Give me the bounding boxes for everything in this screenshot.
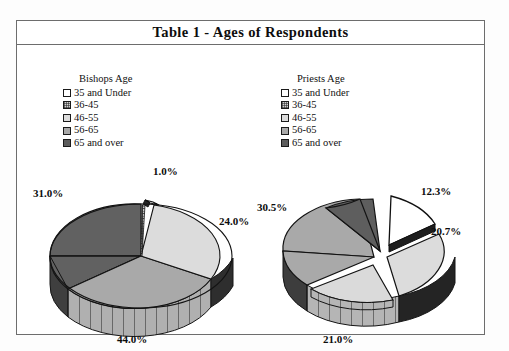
legend-swatch-46-55-icon — [63, 114, 71, 122]
legend-swatch-36-45-icon — [281, 101, 289, 109]
legend-item: 46-55 — [281, 112, 349, 125]
pie-chart-bishops: 1.0% 24.0% 31.0% 44.0% — [35, 161, 263, 351]
figure-frame: Table 1 - Ages of Respondents Bishops Ag… — [16, 20, 485, 335]
legend-swatch-35-and-under-icon — [63, 89, 71, 97]
pie-label-46-55: 20.7% — [431, 225, 461, 237]
legend-swatch-35-and-under-icon — [281, 89, 289, 97]
legend-label: 35 and Under — [74, 87, 131, 100]
legend-item: 36-45 — [281, 99, 349, 112]
legend-item: 65 and over — [63, 137, 132, 150]
legend-label: 46-55 — [74, 112, 99, 125]
legend-bishops-title: Bishops Age — [79, 73, 132, 86]
legend-label: 56-65 — [292, 124, 317, 137]
legend-label: 46-55 — [292, 112, 317, 125]
legend-swatch-56-65-icon — [281, 127, 289, 135]
legend-swatch-65-and-over-icon — [63, 139, 71, 147]
legend-priests: Priests Age 35 and Under 36-45 46-55 56-… — [281, 73, 349, 150]
pie-label-36-45: 21.0% — [323, 333, 353, 345]
figure-title-bar: Table 1 - Ages of Respondents — [17, 21, 484, 45]
pie-label-56-65: 44.0% — [117, 333, 147, 345]
pie-chart-priests-svg — [263, 161, 493, 351]
legend-label: 35 and Under — [292, 87, 349, 100]
legend-swatch-46-55-icon — [281, 114, 289, 122]
pie-label-56-65: 30.5% — [257, 201, 287, 213]
legend-label: 65 and over — [292, 137, 342, 150]
legend-swatch-56-65-icon — [63, 127, 71, 135]
legend-priests-title: Priests Age — [297, 73, 349, 86]
legend-item: 65 and over — [281, 137, 349, 150]
pie-chart-bishops-svg — [35, 161, 263, 351]
pie-chart-priests: 12.3% 20.7% 30.5% 21.0% — [263, 161, 493, 351]
pie-label-35-and-under: 1.0% — [153, 165, 178, 177]
legend-swatch-36-45-icon — [63, 101, 71, 109]
pie-label-35-and-under: 12.3% — [421, 185, 451, 197]
legend-label: 56-65 — [74, 124, 99, 137]
pie-slice-65-and-over — [50, 204, 141, 256]
legend-swatch-65-and-over-icon — [281, 139, 289, 147]
pie-label-46-55: 24.0% — [219, 215, 249, 227]
legend-item: 46-55 — [63, 112, 132, 125]
legend-label: 36-45 — [74, 99, 99, 112]
legend-item: 35 and Under — [281, 87, 349, 100]
legend-item: 35 and Under — [63, 87, 132, 100]
legend-item: 56-65 — [281, 124, 349, 137]
legend-label: 65 and over — [74, 137, 124, 150]
page-title: Table 1 - Ages of Respondents — [153, 24, 349, 41]
pie-label-65-and-over: 31.0% — [33, 187, 63, 199]
legend-bishops: Bishops Age 35 and Under 36-45 46-55 56-… — [63, 73, 132, 150]
legend-label: 36-45 — [292, 99, 317, 112]
legend-item: 56-65 — [63, 124, 132, 137]
legend-item: 36-45 — [63, 99, 132, 112]
